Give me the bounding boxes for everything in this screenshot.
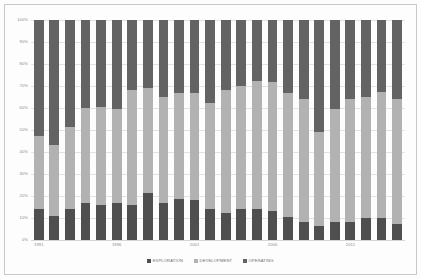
bar-slot[interactable] xyxy=(374,20,390,240)
bar-segment-operating[interactable] xyxy=(96,20,106,107)
bar-slot[interactable] xyxy=(47,20,63,240)
bar-segment-development[interactable] xyxy=(283,93,293,217)
bar-segment-operating[interactable] xyxy=(299,20,309,99)
stacked-bar[interactable] xyxy=(49,20,59,240)
bar-slot[interactable] xyxy=(327,20,343,240)
bar-segment-exploration[interactable] xyxy=(81,203,91,240)
bar-slot[interactable] xyxy=(311,20,327,240)
bar-segment-exploration[interactable] xyxy=(96,205,106,240)
bar-slot[interactable] xyxy=(249,20,265,240)
bar-segment-operating[interactable] xyxy=(377,20,387,92)
bar-segment-development[interactable] xyxy=(174,93,184,200)
bar-segment-development[interactable] xyxy=(314,132,324,226)
stacked-bar[interactable] xyxy=(268,20,278,240)
bar-segment-operating[interactable] xyxy=(314,20,324,132)
bar-segment-development[interactable] xyxy=(96,107,106,205)
bar-segment-operating[interactable] xyxy=(330,20,340,109)
bar-segment-exploration[interactable] xyxy=(314,226,324,240)
bar-slot[interactable] xyxy=(234,20,250,240)
bar-segment-exploration[interactable] xyxy=(236,209,246,240)
bar-segment-development[interactable] xyxy=(361,97,371,218)
bar-slot[interactable] xyxy=(358,20,374,240)
bar-slot[interactable] xyxy=(93,20,109,240)
bar-segment-development[interactable] xyxy=(49,145,59,215)
bar-segment-development[interactable] xyxy=(268,82,278,212)
bar-segment-operating[interactable] xyxy=(81,20,91,108)
stacked-bar[interactable] xyxy=(361,20,371,240)
bar-slot[interactable] xyxy=(124,20,140,240)
stacked-bar[interactable] xyxy=(221,20,231,240)
bar-segment-operating[interactable] xyxy=(268,20,278,82)
bar-segment-development[interactable] xyxy=(392,99,402,223)
bar-segment-operating[interactable] xyxy=(392,20,402,99)
bar-slot[interactable] xyxy=(187,20,203,240)
bar-segment-exploration[interactable] xyxy=(361,218,371,240)
bar-segment-development[interactable] xyxy=(330,109,340,222)
bar-slot[interactable] xyxy=(78,20,94,240)
bar-segment-development[interactable] xyxy=(252,81,262,210)
bar-segment-development[interactable] xyxy=(127,90,137,204)
stacked-bar[interactable] xyxy=(236,20,246,240)
bar-segment-operating[interactable] xyxy=(159,20,169,97)
bar-segment-exploration[interactable] xyxy=(221,213,231,241)
bar-segment-exploration[interactable] xyxy=(143,193,153,240)
bar-segment-operating[interactable] xyxy=(112,20,122,109)
bar-slot[interactable] xyxy=(343,20,359,240)
bar-segment-development[interactable] xyxy=(205,103,215,210)
bar-segment-operating[interactable] xyxy=(205,20,215,103)
bar-segment-exploration[interactable] xyxy=(283,217,293,240)
bar-segment-development[interactable] xyxy=(143,88,153,193)
bar-slot[interactable] xyxy=(171,20,187,240)
stacked-bar[interactable] xyxy=(345,20,355,240)
stacked-bar[interactable] xyxy=(127,20,137,240)
bar-slot[interactable] xyxy=(109,20,125,240)
bar-segment-operating[interactable] xyxy=(236,20,246,86)
stacked-bar[interactable] xyxy=(283,20,293,240)
bar-segment-exploration[interactable] xyxy=(392,224,402,241)
bar-segment-development[interactable] xyxy=(345,99,355,222)
stacked-bar[interactable] xyxy=(252,20,262,240)
bar-segment-exploration[interactable] xyxy=(205,209,215,240)
bar-segment-operating[interactable] xyxy=(221,20,231,90)
bar-slot[interactable] xyxy=(202,20,218,240)
bar-segment-operating[interactable] xyxy=(143,20,153,88)
bar-slot[interactable] xyxy=(156,20,172,240)
bar-segment-exploration[interactable] xyxy=(345,222,355,240)
stacked-bar[interactable] xyxy=(330,20,340,240)
bar-segment-exploration[interactable] xyxy=(112,203,122,240)
stacked-bar[interactable] xyxy=(96,20,106,240)
bar-segment-development[interactable] xyxy=(299,99,309,222)
bar-segment-exploration[interactable] xyxy=(65,209,75,240)
legend-item[interactable]: DEVELOPMENT xyxy=(194,259,232,263)
bar-segment-development[interactable] xyxy=(159,97,169,203)
bar-segment-exploration[interactable] xyxy=(299,222,309,240)
bar-slot[interactable] xyxy=(218,20,234,240)
bar-segment-operating[interactable] xyxy=(127,20,137,90)
stacked-bar[interactable] xyxy=(377,20,387,240)
stacked-bar[interactable] xyxy=(112,20,122,240)
bar-slot[interactable] xyxy=(31,20,47,240)
stacked-bar[interactable] xyxy=(392,20,402,240)
bar-segment-operating[interactable] xyxy=(49,20,59,145)
bar-segment-exploration[interactable] xyxy=(34,209,44,240)
bar-slot[interactable] xyxy=(389,20,405,240)
bar-slot[interactable] xyxy=(296,20,312,240)
bar-slot[interactable] xyxy=(265,20,281,240)
stacked-bar[interactable] xyxy=(190,20,200,240)
bar-segment-development[interactable] xyxy=(65,127,75,210)
bar-segment-development[interactable] xyxy=(236,86,246,209)
legend-item[interactable]: EXPLORATION xyxy=(147,259,183,263)
bar-slot[interactable] xyxy=(140,20,156,240)
stacked-bar[interactable] xyxy=(299,20,309,240)
bar-segment-development[interactable] xyxy=(190,93,200,201)
bar-segment-exploration[interactable] xyxy=(174,199,184,240)
bar-segment-operating[interactable] xyxy=(174,20,184,93)
bar-segment-operating[interactable] xyxy=(34,20,44,136)
stacked-bar[interactable] xyxy=(81,20,91,240)
bar-segment-exploration[interactable] xyxy=(377,218,387,240)
bar-segment-exploration[interactable] xyxy=(330,222,340,240)
bar-segment-exploration[interactable] xyxy=(159,203,169,240)
stacked-bar[interactable] xyxy=(159,20,169,240)
stacked-bar[interactable] xyxy=(65,20,75,240)
bar-segment-development[interactable] xyxy=(377,92,387,219)
